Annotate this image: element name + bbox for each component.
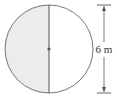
center-point xyxy=(47,47,50,50)
shaded-left-semicircle xyxy=(5,5,49,93)
circle-diagram: 6 m xyxy=(0,0,117,96)
dimension-label: 6 m xyxy=(96,43,113,55)
arrow-down-icon xyxy=(102,87,106,92)
dimension-marker: 6 m xyxy=(96,5,113,93)
arrow-up-icon xyxy=(102,6,106,11)
